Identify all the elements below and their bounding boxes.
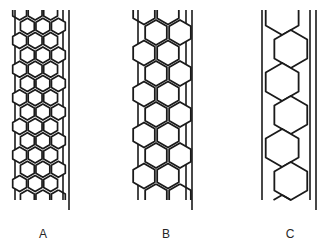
cell-group [13,10,66,200]
cell-group [133,10,191,200]
hex-cell [157,123,179,148]
hex-cell [28,147,42,163]
hex-cell [20,76,34,92]
hex-cell [51,104,65,120]
hex-cell-partial [44,10,58,20]
hex-cell [51,133,65,149]
hex-cell [169,20,191,45]
hex-cell [28,90,42,106]
hex-cell [20,133,34,149]
hex-cell [51,76,65,92]
hex-cell [13,90,27,106]
hex-cell [44,176,58,192]
hex-cell [28,176,42,192]
panel-label-a: A [39,227,47,241]
hex-cell [44,61,58,77]
hex-cell [28,61,42,77]
hex-cell [51,18,65,34]
hex-cell [133,164,155,189]
hex-cell [169,102,191,127]
hex-cell [133,41,155,66]
hex-cell [13,61,27,77]
figure-container: A B C [0,0,333,250]
hex-cell-partial [20,190,34,200]
hex-cell [145,143,167,168]
hex-cell [20,161,34,177]
hex-cell [13,147,27,163]
hex-cell [274,162,307,200]
hex-cell [274,30,307,68]
hexagon-packing-figure: A B C [0,0,333,250]
hex-cell [145,20,167,45]
hex-cell [36,133,50,149]
hex-cell [20,104,34,120]
hex-cell [145,102,167,127]
hex-cell [13,118,27,134]
hex-cell [51,47,65,63]
cell-group [266,10,308,200]
hex-cell [44,118,58,134]
hex-cell [28,118,42,134]
hex-cell [13,176,27,192]
hex-cell [157,41,179,66]
hex-cell [20,18,34,34]
hex-cell [36,161,50,177]
hex-cell [169,143,191,168]
hex-cell [51,161,65,177]
hex-cell [36,104,50,120]
hex-cell [28,33,42,49]
hex-cell-partial [28,10,42,20]
panel-b [133,10,192,210]
hex-cell [133,123,155,148]
panel-c [262,10,316,210]
hex-cell [13,33,27,49]
hex-cell [36,47,50,63]
hex-cell [133,82,155,107]
hex-cell [44,33,58,49]
hex-cell [44,147,58,163]
hex-cell [266,63,299,101]
hex-cell [36,18,50,34]
panel-a [13,10,69,210]
hex-cell [157,82,179,107]
hex-cell [36,76,50,92]
hex-cell [169,61,191,86]
hex-cell-partial [36,190,50,200]
hex-cell [145,61,167,86]
hex-cell [44,90,58,106]
panel-label-b: B [162,227,170,241]
hex-cell [266,129,299,167]
hex-cell [274,96,307,134]
hex-cell [157,164,179,189]
hex-cell [20,47,34,63]
panel-label-c: C [286,227,295,241]
